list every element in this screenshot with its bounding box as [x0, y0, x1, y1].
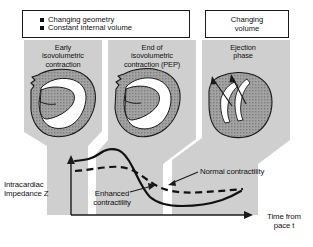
annotation-enhanced-contractility: Enhanced contractility	[79, 190, 145, 207]
phase-caption-end-isovolumetric: End ofisovolumetriccontraction (PEP)	[106, 44, 198, 69]
y-axis-label-line2: Impedance Z	[4, 189, 48, 198]
square-bullet-icon	[40, 18, 44, 22]
x-axis-label: Time from pace t	[255, 213, 313, 230]
legend-changing-volume-box: Changing volume	[205, 10, 289, 38]
y-axis-label: Intracardiac Impedance Z	[4, 181, 70, 198]
square-bullet-icon	[40, 26, 44, 30]
legend-item-constant-internal-volume: Constant internal volume	[40, 24, 189, 32]
heart-ejection	[209, 72, 272, 137]
annotation-enhanced-line1: Enhanced	[95, 189, 129, 198]
legend-label-constant-internal-volume: Constant internal volume	[48, 24, 132, 32]
phase-caption-early-isovolumetric: Earlyisovolumetriccontraction	[25, 44, 101, 69]
y-axis-label-line1: Intracardiac	[4, 180, 44, 189]
figure-root: Changing geometry Constant internal volu…	[0, 0, 313, 247]
legend-changing-volume-line1: Changing	[231, 15, 264, 24]
phase-caption-ejection: Ejectionphase	[203, 44, 283, 61]
annotation-enhanced-line2: contractility	[93, 198, 131, 207]
x-axis-label-line2: pace t	[274, 221, 295, 230]
legend-changing-volume-line2: volume	[235, 24, 259, 33]
legend-changing-geometry-box: Changing geometry Constant internal volu…	[22, 10, 190, 38]
legend-label-changing-volume: Changing volume	[206, 11, 288, 33]
x-axis-label-line1: Time from	[267, 212, 301, 221]
annotation-normal-contractility: Normal contractility	[200, 168, 300, 177]
